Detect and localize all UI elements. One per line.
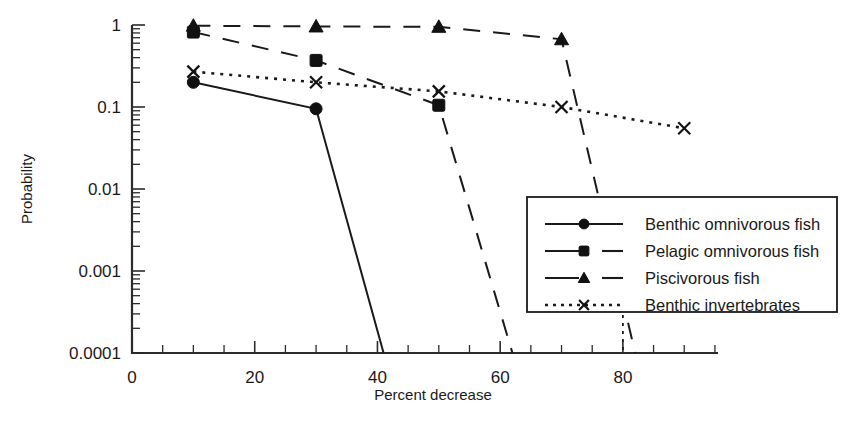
y-axis-tick-labels: 10.10.010.0010.0001 xyxy=(69,16,121,363)
chart-svg: 10.10.010.0010.0001 020406080 Percent de… xyxy=(0,0,866,439)
probability-vs-percent-decrease-chart: 10.10.010.0010.0001 020406080 Percent de… xyxy=(0,0,866,439)
y-tick-label: 0.001 xyxy=(78,262,121,281)
data-point-circle xyxy=(310,103,322,115)
series-pelagic-omnivorous-fish xyxy=(187,26,512,353)
y-tick-label: 0.01 xyxy=(88,180,121,199)
data-point-square xyxy=(310,54,322,66)
data-point-x xyxy=(678,122,690,134)
y-axis-ticks xyxy=(132,25,145,353)
x-tick-label: 40 xyxy=(368,368,387,387)
series-line xyxy=(193,82,383,353)
series-line xyxy=(193,32,512,353)
series-benthic-omnivorous-fish xyxy=(187,76,383,353)
legend-label: Benthic invertebrates xyxy=(645,296,800,314)
x-axis-label: Percent decrease xyxy=(374,386,492,403)
data-point-circle xyxy=(187,76,199,88)
y-axis-label: Probability xyxy=(18,153,35,224)
y-tick-label: 0.1 xyxy=(97,98,121,117)
x-tick-label: 20 xyxy=(245,368,264,387)
x-tick-label: 0 xyxy=(127,368,136,387)
legend-label: Benthic omnivorous fish xyxy=(645,215,820,233)
data-point-circle xyxy=(579,219,589,229)
x-tick-label: 80 xyxy=(613,368,632,387)
data-point-square xyxy=(579,246,589,256)
legend-label: Piscivorous fish xyxy=(645,269,760,287)
y-tick-label: 0.0001 xyxy=(69,344,121,363)
data-point-square xyxy=(433,99,445,111)
legend: Benthic omnivorous fishPelagic omnivorou… xyxy=(527,197,837,314)
y-tick-label: 1 xyxy=(112,16,121,35)
x-axis-ticks xyxy=(132,341,715,353)
data-point-x xyxy=(556,101,568,113)
legend-label: Pelagic omnivorous fish xyxy=(645,242,819,260)
x-tick-label: 60 xyxy=(491,368,510,387)
x-axis-tick-labels: 020406080 xyxy=(127,368,632,387)
data-point-x xyxy=(433,85,445,97)
